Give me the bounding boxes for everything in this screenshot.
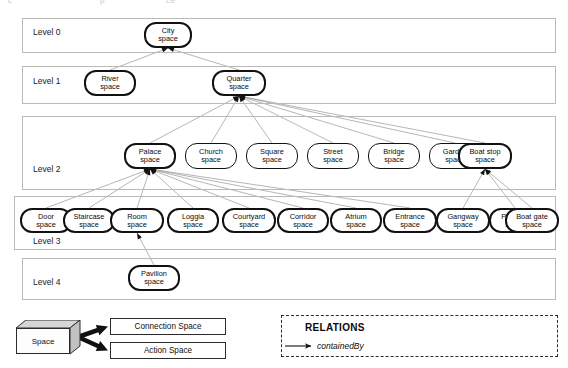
node-courtyard[interactable]: Courtyardspace [222, 208, 276, 233]
node-room[interactable]: Roomspace [110, 208, 164, 233]
node-river[interactable]: Riverspace [84, 70, 136, 96]
level-label-1: Level 1 [33, 76, 60, 86]
node-label-secondary: space [453, 221, 473, 229]
node-label-secondary: space [475, 156, 495, 164]
node-boatgate[interactable]: Boat gatespace [505, 208, 559, 233]
node-label-secondary: space [158, 35, 178, 43]
figure-canvas: c p ce Level 0Level 1Level 2Level 3Level… [0, 0, 568, 368]
node-pavilion[interactable]: Pavilionspace [128, 265, 180, 291]
node-label-secondary: space [293, 221, 313, 229]
node-label-secondary: space [36, 221, 56, 229]
node-label-secondary: space [522, 221, 542, 229]
node-palace[interactable]: Palacespace [124, 143, 176, 169]
relations-legend-box [281, 315, 558, 357]
space-label: Space [16, 328, 70, 354]
node-label-secondary: space [140, 156, 160, 164]
legend-box-connection-space[interactable]: Connection Space [110, 318, 226, 335]
node-label-secondary: space [183, 221, 203, 229]
scan-header-ghost-text: c p ce [0, 0, 568, 9]
node-church[interactable]: Churchspace [185, 143, 237, 169]
node-corridor[interactable]: Corridorspace [277, 208, 329, 233]
node-quarter[interactable]: Quarterspace [212, 70, 266, 96]
legend-box-action-space[interactable]: Action Space [110, 342, 226, 359]
node-label-secondary: space [229, 83, 249, 91]
node-label-secondary: space [100, 83, 120, 91]
node-street[interactable]: Streetspace [307, 143, 359, 169]
node-boatstop[interactable]: Boat stopspace [458, 143, 512, 169]
node-loggia[interactable]: Loggiaspace [167, 208, 219, 233]
level-label-4: Level 4 [33, 277, 60, 287]
node-gangway[interactable]: Gangwayspace [436, 208, 490, 233]
node-label-secondary: space [201, 156, 221, 164]
level-label-0: Level 0 [33, 27, 60, 37]
node-label-secondary: space [239, 221, 259, 229]
level-label-3: Level 3 [33, 236, 60, 246]
node-staircase[interactable]: Staircasespace [63, 208, 115, 233]
node-label-secondary: space [144, 278, 164, 286]
node-atrium[interactable]: Atriumspace [330, 208, 382, 233]
node-entrance[interactable]: Entrancespace [383, 208, 437, 233]
node-label-secondary: space [262, 156, 282, 164]
node-square[interactable]: Squarespace [246, 143, 298, 169]
node-city[interactable]: Cityspace [144, 22, 192, 48]
level-label-2: Level 2 [33, 164, 60, 174]
node-label-secondary: space [79, 221, 99, 229]
node-label-secondary: space [127, 221, 147, 229]
node-label-secondary: space [400, 221, 420, 229]
node-bridge[interactable]: Bridgespace [368, 143, 420, 169]
node-label-secondary: space [384, 156, 404, 164]
level-band-level-4 [22, 258, 556, 300]
level-band-level-0 [22, 18, 556, 53]
node-label-secondary: space [346, 221, 366, 229]
node-label-secondary: space [323, 156, 343, 164]
space-class-box: Space [16, 320, 80, 356]
